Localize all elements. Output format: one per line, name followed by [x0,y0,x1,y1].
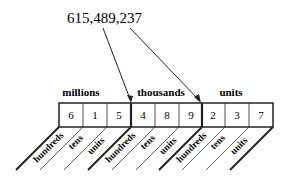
place-label: hundreds [31,130,65,164]
group-label-units: units [219,86,243,98]
digit-cell: 4 [140,109,146,121]
digit-cell: 8 [164,109,170,121]
number-label: 615,489,237 [67,10,143,26]
place-label: hundreds [103,130,137,164]
place-label: hundreds [174,130,208,164]
group-label-thousands: thousands [137,86,185,98]
digit-cell: 5 [116,109,122,121]
digit-cell: 1 [92,109,98,121]
digit-cell: 7 [258,109,264,121]
place-label: tens [138,133,157,152]
arrow-to-thousands [103,28,133,103]
place-value-diagram: 615,489,237 millions thousands units 6 1… [0,0,285,185]
digit-cell: 3 [234,109,240,121]
digit-cell: 6 [68,109,74,121]
digit-cell: 9 [188,109,194,121]
place-label: tens [66,133,85,152]
place-label: tens [208,133,227,152]
group-label-millions: millions [62,86,100,98]
digit-cell: 2 [210,109,216,121]
